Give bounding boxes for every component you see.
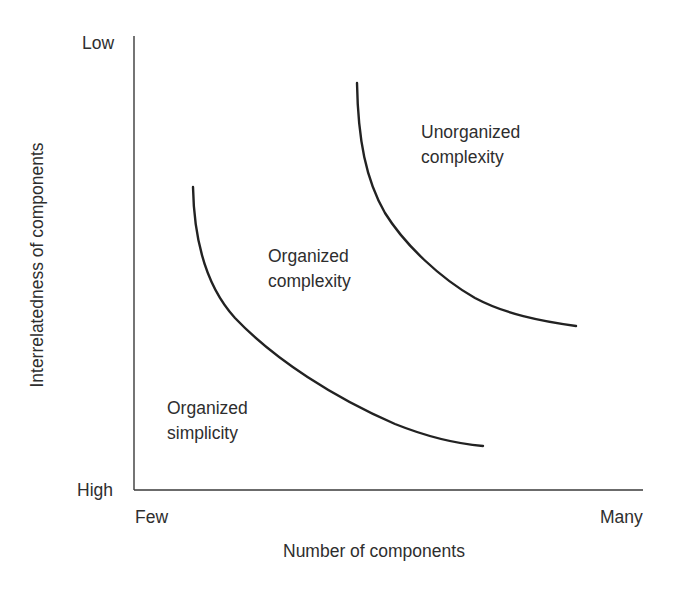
complexity-diagram: Low High Few Many Number of components I… (0, 0, 678, 591)
region-unorganized-complexity: Unorganized complexity (421, 120, 520, 170)
region-label-line2: complexity (421, 145, 520, 170)
y-axis-low-label: Low (82, 31, 114, 56)
region-label-line1: Unorganized (421, 120, 520, 145)
x-axis-many-label: Many (600, 505, 643, 530)
region-organized-simplicity: Organized simplicity (167, 396, 248, 446)
x-axis-few-label: Few (135, 505, 168, 530)
region-label-line2: simplicity (167, 421, 248, 446)
y-axis-title: Interrelatedness of components (25, 142, 50, 387)
region-label-line2: complexity (268, 269, 351, 294)
region-organized-complexity: Organized complexity (268, 244, 351, 294)
region-label-line1: Organized (268, 244, 351, 269)
region-label-line1: Organized (167, 396, 248, 421)
x-axis-title: Number of components (283, 539, 465, 564)
y-axis-high-label: High (77, 478, 113, 503)
